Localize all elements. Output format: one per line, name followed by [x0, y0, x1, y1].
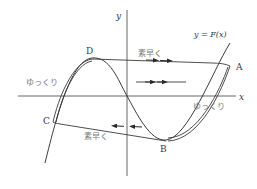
point-a-label: A — [235, 62, 243, 72]
curve-label: y = F(x) — [193, 30, 227, 39]
annotation-fast-bottom: 素早く — [84, 131, 108, 141]
point-b-label: B — [160, 144, 167, 154]
arrow-bottom-2 — [114, 126, 124, 127]
point-d-label: D — [86, 46, 93, 56]
limit-cycle — [53, 59, 230, 141]
y-axis-label: y — [115, 11, 122, 21]
annotation-fast-top: 素早く — [138, 48, 162, 58]
x-axis-label: x — [239, 92, 244, 102]
point-c-label: C — [43, 116, 50, 126]
annotation-slow-right: ゆっくり — [193, 102, 225, 111]
annotation-slow-left: ゆっくり — [26, 78, 58, 87]
limit-cycle-diagram: x y y = F(x) A B C D 素早く ゆっくり ゆっくり 素早く — [0, 0, 257, 189]
arrow-bottom-1 — [132, 127, 142, 128]
